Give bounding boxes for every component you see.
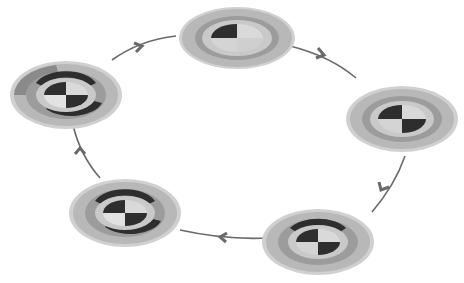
stage-disk-1 <box>179 7 295 69</box>
stage-disk-2 <box>346 86 458 152</box>
stage-disk-3 <box>262 209 374 275</box>
arrow-stage1-to-stage2 <box>290 46 356 78</box>
arrow-chevron-icon <box>316 48 324 58</box>
stage-disk-4 <box>69 179 181 247</box>
arrow-stage2-to-stage3 <box>372 156 405 212</box>
arrow-stage1-to-stage5 <box>112 36 176 60</box>
pie-quadrants <box>44 82 88 108</box>
pie-quadrants <box>211 24 263 52</box>
pie-quadrants <box>296 229 340 255</box>
cycle-diagram <box>0 0 464 283</box>
pie-quadrants <box>103 200 147 226</box>
arrow-chevron-icon <box>75 148 85 154</box>
stage-disk-5 <box>10 61 122 129</box>
pie-quadrants <box>378 105 426 133</box>
arrow-chevron-icon <box>379 182 389 190</box>
